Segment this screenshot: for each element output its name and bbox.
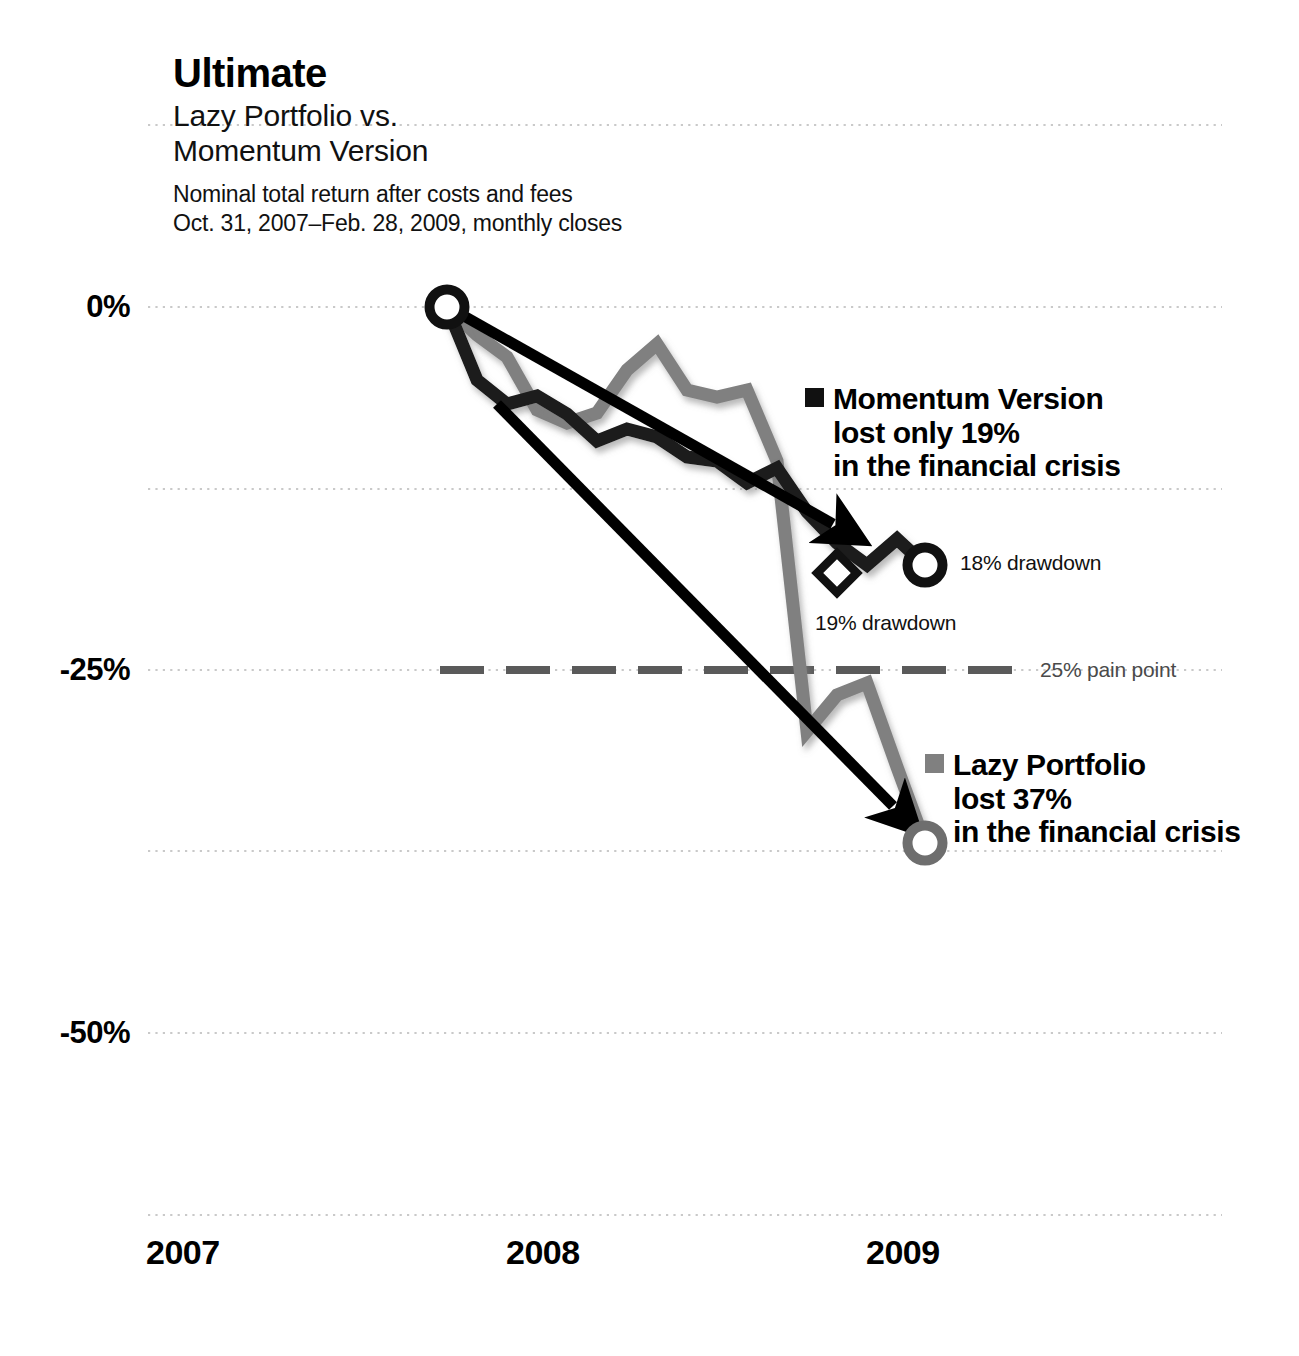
title-subtitle-line1: Lazy Portfolio vs. [173,98,813,133]
label-pain-point: 25% pain point [1040,658,1176,682]
ytick-label-minus25: -25% [10,652,130,688]
legend-swatch-lazy-icon [925,754,944,773]
callout-lazy-row2: lost 37% [953,782,1241,816]
title-description-line1: Nominal total return after costs and fee… [173,180,813,209]
ytick-label-0: 0% [10,289,130,325]
xtick-label-2007: 2007 [146,1233,220,1272]
page-title: Ultimate [173,52,813,94]
callout-lazy-row3: in the financial crisis [953,815,1241,849]
marker-start-circle [430,290,465,325]
chart-canvas: Ultimate Lazy Portfolio vs. Momentum Ver… [0,0,1299,1356]
title-description-line2: Oct. 31, 2007–Feb. 28, 2009, monthly clo… [173,209,813,238]
label-18-drawdown: 18% drawdown [960,551,1101,575]
callout-momentum-version: Momentum Version lost only 19% in the fi… [805,382,1121,483]
title-block: Ultimate Lazy Portfolio vs. Momentum Ver… [173,52,813,237]
xtick-label-2008: 2008 [506,1233,580,1272]
callout-momentum-label: Momentum Version [833,382,1103,415]
xtick-label-2009: 2009 [866,1233,940,1272]
label-19-drawdown: 19% drawdown [815,611,956,635]
title-subtitle-line2: Momentum Version [173,133,813,168]
callout-lazy-row1: Lazy Portfolio [925,748,1241,782]
marker-momentum-end-circle [908,548,943,583]
ytick-label-minus50: -50% [10,1015,130,1051]
callout-momentum-row1: Momentum Version [805,382,1121,416]
legend-swatch-momentum-icon [805,388,824,407]
callout-momentum-row2: lost only 19% [833,416,1121,450]
callout-lazy-portfolio: Lazy Portfolio lost 37% in the financial… [925,748,1241,849]
callout-momentum-row3: in the financial crisis [833,449,1121,483]
callout-lazy-label: Lazy Portfolio [953,748,1146,781]
